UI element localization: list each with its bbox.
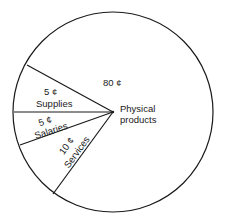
physical-name-line2: products: [120, 114, 157, 125]
pie-chart: 80 ¢ Physical products 5 ¢ Supplies 5 ¢ …: [0, 0, 226, 223]
supplies-value-label: 5 ¢: [44, 86, 57, 97]
physical-name-line1: Physical: [120, 103, 155, 114]
pie-center: [112, 111, 114, 113]
physical-value-label: 80 ¢: [103, 77, 122, 88]
supplies-name-label: Supplies: [36, 98, 73, 109]
